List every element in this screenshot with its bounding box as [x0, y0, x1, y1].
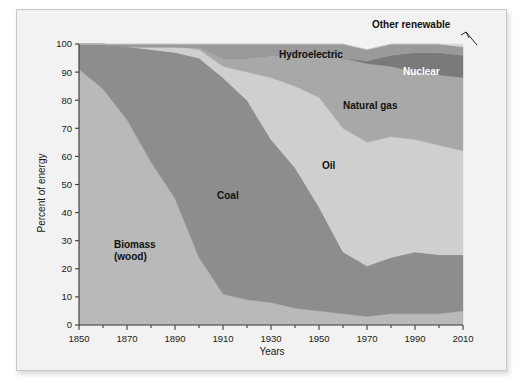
label-biomass-line2: (wood)	[114, 251, 147, 262]
x-tick-label-1990: 1990	[404, 333, 425, 344]
y-tick-label-60: 60	[61, 151, 72, 162]
label-coal: Coal	[217, 190, 239, 201]
x-tick-label-1950: 1950	[308, 333, 329, 344]
y-axis-title: Percent of energy	[36, 154, 47, 233]
y-tick-label-20: 20	[61, 263, 72, 274]
y-tick-label-100: 100	[56, 38, 72, 49]
y-tick-label-50: 50	[61, 179, 72, 190]
label-hydroelectric: Hydroelectric	[279, 49, 343, 60]
other-renewable-leader-icon	[466, 32, 477, 45]
y-tick-label-40: 40	[61, 207, 72, 218]
figure-card: 0102030405060708090100 18501870189019101…	[16, 9, 507, 371]
x-tick-label-1890: 1890	[164, 333, 185, 344]
y-axis-tick-labels: 0102030405060708090100	[56, 38, 72, 330]
label-biomass-line1: Biomass	[114, 239, 156, 250]
x-tick-label-1870: 1870	[116, 333, 137, 344]
label-other-renewable: Other renewable	[372, 19, 451, 30]
x-tick-label-2010: 2010	[452, 333, 473, 344]
y-tick-label-90: 90	[61, 67, 72, 78]
x-tick-label-1970: 1970	[356, 333, 377, 344]
label-nuclear: Nuclear	[403, 66, 440, 77]
label-natural-gas: Natural gas	[343, 100, 398, 111]
y-tick-label-30: 30	[61, 235, 72, 246]
x-axis-title: Years	[259, 346, 284, 357]
x-axis-ticks	[79, 325, 463, 330]
y-axis-ticks	[75, 44, 79, 325]
energy-sources-stacked-area-chart: 0102030405060708090100 18501870189019101…	[17, 10, 507, 371]
x-tick-label-1910: 1910	[212, 333, 233, 344]
label-oil: Oil	[322, 160, 336, 171]
x-axis-tick-labels: 185018701890191019301950197019902010	[68, 333, 473, 344]
x-tick-label-1930: 1930	[260, 333, 281, 344]
other-renewable-arrowhead-icon	[461, 32, 469, 38]
x-tick-label-1850: 1850	[68, 333, 89, 344]
chart-areas	[79, 44, 463, 325]
y-tick-label-10: 10	[61, 291, 72, 302]
y-tick-label-80: 80	[61, 95, 72, 106]
y-tick-label-0: 0	[67, 319, 72, 330]
y-tick-label-70: 70	[61, 123, 72, 134]
